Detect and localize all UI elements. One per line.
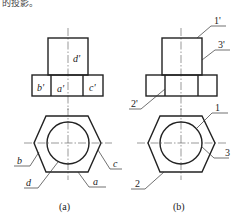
top-text-fragment: 的投影。: [2, 0, 38, 8]
top-view-b: 1 3 2: [131, 102, 230, 189]
label-d: d: [26, 177, 32, 188]
caption-b: (b): [173, 201, 185, 213]
label-1-prime: 1': [214, 15, 221, 26]
projection-diagram: 的投影。 d' b' a' c' b c d: [0, 0, 243, 221]
label-d-prime: d': [73, 53, 81, 64]
label-b-prime: b': [37, 82, 45, 93]
label-c: c: [113, 158, 118, 169]
label-3-prime: 3': [218, 39, 225, 50]
caption-a: (a): [59, 201, 70, 213]
label-2: 2: [135, 178, 140, 189]
cylinder-outline: [162, 38, 202, 75]
label-a: a: [93, 176, 98, 187]
label-b: b: [17, 155, 22, 166]
label-c-prime: c': [89, 82, 96, 93]
figure-a: d' b' a' c' b c d a (a): [14, 28, 122, 213]
leader-c: [98, 150, 122, 169]
label-a-prime: a': [57, 83, 65, 94]
leader-1: [197, 113, 228, 128]
hex-prism-outline: [146, 75, 217, 96]
leader-a: [78, 172, 106, 187]
figure-b: 1' 3' 2' 1 3 2 (b): [129, 15, 230, 213]
top-view-a: b c d a: [14, 108, 122, 188]
leader-3-prime: [202, 50, 230, 60]
front-view-b: 1' 3' 2': [129, 15, 230, 110]
label-2-prime: 2': [131, 98, 138, 109]
label-1: 1: [215, 102, 220, 113]
front-view-a: d' b' a' c': [32, 28, 103, 110]
label-3: 3: [225, 147, 230, 158]
leader-1-prime: [197, 26, 226, 38]
